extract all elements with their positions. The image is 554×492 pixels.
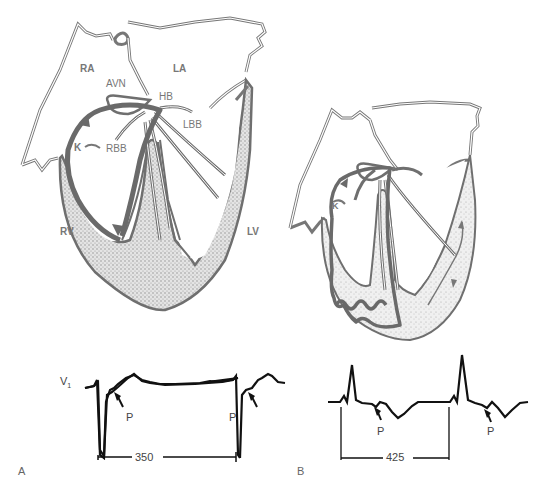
figure: RA LA AVN HB LBB RBB K RV LV K V1 P P 35… [0, 0, 554, 492]
panel-letter-a: A [18, 466, 25, 477]
label-rbb: RBB [106, 144, 127, 154]
interval-label-b: 425 [386, 452, 404, 463]
p-wave-label-a2: P [229, 412, 236, 423]
panel-letter-b: B [297, 466, 304, 477]
p-wave-label-b1: P [377, 426, 384, 437]
label-ra: RA [80, 64, 94, 74]
label-hb: HB [159, 92, 173, 102]
label-lv: LV [247, 227, 259, 237]
p-wave-label-b2: P [487, 426, 494, 437]
p-wave-label-a1: P [126, 412, 133, 423]
ecg-lead-label: V1 [60, 376, 71, 389]
label-la: LA [173, 64, 186, 74]
label-lbb: LBB [183, 120, 202, 130]
label-k-b: K [332, 202, 339, 211]
label-avn: AVN [106, 79, 126, 89]
label-rv: RV [60, 227, 74, 237]
label-k-a: K [74, 143, 81, 153]
interval-label-a: 350 [135, 452, 153, 463]
